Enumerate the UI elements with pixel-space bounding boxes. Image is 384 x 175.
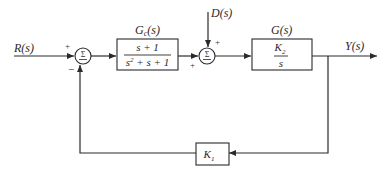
summing-junction-1: Σ + − [65,41,91,75]
plant-denominator: s [279,57,283,69]
output-signal-label: Y(s) [345,39,364,53]
sum2-left-plus-sign: + [190,60,195,70]
sum2-symbol: Σ [205,50,210,59]
controller-block: Gc(s) s + 1 s2 + s + 1 [117,23,178,70]
input-signal-label: R(s) [13,41,34,55]
disturbance-signal-label: D(s) [210,6,232,20]
feedback-takeoff-wire [229,56,328,153]
controller-label: Gc(s) [135,23,160,38]
plant-label: G(s) [271,23,292,37]
plant-block: G(s) K2 s [252,23,312,70]
sum1-symbol: Σ [81,50,86,59]
sum1-plus-sign: + [65,41,70,51]
sum1-minus-sign: − [68,63,74,75]
feedback-return-wire [80,65,196,153]
block-diagram: R(s) Σ + − Gc(s) s + 1 s2 + s + 1 D(s) Σ… [0,0,384,175]
feedback-block: K1 [196,143,229,165]
sum2-top-plus-sign: + [215,37,220,47]
controller-numerator: s + 1 [136,41,159,53]
summing-junction-2: Σ + + [190,37,220,70]
